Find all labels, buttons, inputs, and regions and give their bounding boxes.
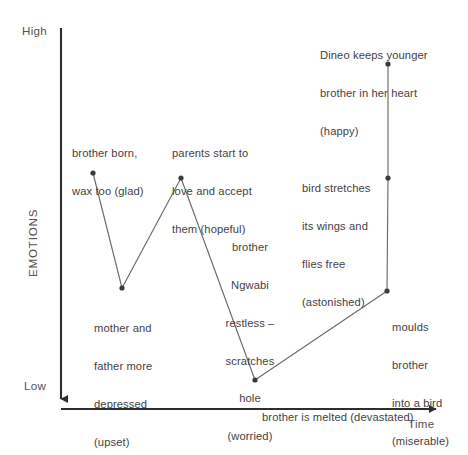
annotation-devastated: brother is melted (devastated) [262, 386, 414, 449]
annotation-astonished-line-4: (astonished) [302, 296, 371, 309]
annotation-hopeful-line-1: parents start to [172, 147, 252, 160]
annotation-upset-line-3: depressed [94, 398, 152, 411]
annotation-glad: brother born, wax too (glad) [72, 122, 144, 223]
data-point-upset [119, 285, 124, 290]
annotation-happy-line-1: Dineo keeps younger [320, 49, 428, 62]
annotation-glad-line-1: brother born, [72, 147, 144, 160]
annotation-worried-line-3: restless – [208, 317, 292, 330]
annotation-worried-line-1: brother [208, 241, 292, 254]
annotation-miserable-line-1: moulds [392, 321, 449, 334]
annotation-upset-line-1: mother and [94, 322, 152, 335]
annotation-astonished-line-3: flies free [302, 258, 371, 271]
annotation-devastated-line-1: brother is melted (devastated) [262, 411, 414, 424]
data-point-miserable [384, 288, 389, 293]
data-point-astonished [385, 175, 390, 180]
y-axis-low-label: Low [24, 379, 46, 392]
annotation-upset-line-2: father more [94, 360, 152, 373]
emotion-graph-figure: High Low EMOTIONS Time brother born, wax… [0, 0, 468, 455]
annotation-astonished: bird stretches its wings and flies free … [302, 157, 371, 333]
y-axis-title: EMOTIONS [26, 209, 39, 277]
annotation-glad-line-2: wax too (glad) [72, 185, 144, 198]
annotation-happy-line-3: (happy) [320, 125, 428, 138]
annotation-worried-line-4: scratches [208, 355, 292, 368]
annotation-astonished-line-2: its wings and [302, 220, 371, 233]
annotation-worried-line-2: Ngwabi [208, 279, 292, 292]
annotation-happy-line-2: brother in her heart [320, 87, 428, 100]
annotation-astonished-line-1: bird stretches [302, 182, 371, 195]
annotation-happy: Dineo keeps younger brother in her heart… [320, 24, 428, 163]
annotation-upset-line-4: (upset) [94, 436, 152, 449]
annotation-hopeful-line-2: love and accept [172, 185, 252, 198]
annotation-miserable-line-2: brother [392, 359, 449, 372]
annotation-upset: mother and father more depressed (upset) [94, 297, 152, 455]
y-axis-high-label: High [22, 24, 47, 37]
